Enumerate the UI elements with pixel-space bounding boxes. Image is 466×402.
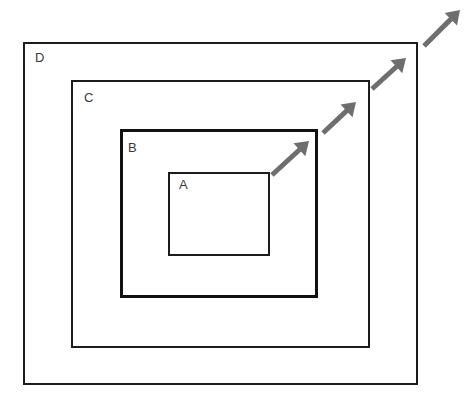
diagram-canvas: DCBA xyxy=(0,0,466,402)
box-d-label: D xyxy=(35,51,45,64)
arrow-4 xyxy=(424,10,460,46)
arrows-group xyxy=(272,10,460,175)
arrow-1-shaft xyxy=(272,149,301,175)
box-d xyxy=(24,43,417,384)
arrow-2-shaft xyxy=(323,110,348,133)
box-c xyxy=(72,81,369,347)
arrow-1 xyxy=(272,141,309,175)
box-a-label: A xyxy=(179,178,188,191)
arrow-4-shaft xyxy=(424,18,452,46)
arrow-2 xyxy=(323,102,356,133)
box-b-label: B xyxy=(128,141,137,154)
arrow-3 xyxy=(372,58,406,89)
box-c-label: C xyxy=(84,91,94,104)
nested-boxes-group xyxy=(24,43,417,384)
arrow-3-shaft xyxy=(372,66,398,89)
diagram-svg xyxy=(0,0,466,402)
box-b xyxy=(122,131,317,297)
